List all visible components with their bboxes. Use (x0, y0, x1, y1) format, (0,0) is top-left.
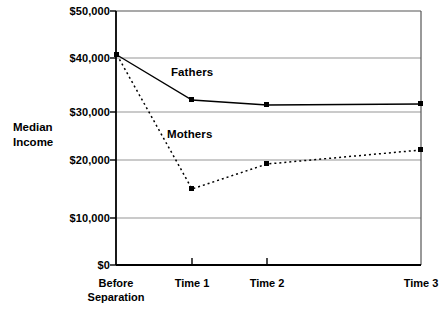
data-point-fathers-1 (189, 97, 194, 102)
series-label-fathers: Fathers (171, 66, 213, 78)
x-tick-label-time-3: Time 3 (381, 276, 444, 290)
plot-area (0, 0, 444, 315)
x-tick-label-time-3-line1: Time 3 (381, 276, 444, 290)
series-line-fathers (117, 55, 421, 105)
x-tick-label-time-2: Time 2 (227, 276, 307, 290)
x-tick-label-before-separation-line1: Before (66, 276, 166, 290)
data-point-mothers-2 (264, 161, 269, 166)
series-label-mothers: Mothers (167, 128, 212, 140)
data-point-mothers-0 (114, 52, 119, 57)
data-point-mothers-3 (418, 147, 423, 152)
data-point-fathers-2 (264, 102, 269, 107)
x-tick-label-time-1-line1: Time 1 (152, 276, 232, 290)
x-tick-label-time-2-line1: Time 2 (227, 276, 307, 290)
x-tick-label-time-1: Time 1 (152, 276, 232, 290)
data-point-fathers-3 (418, 101, 423, 106)
series-line-mothers (117, 55, 421, 189)
income-line-chart: $50,000 $40,000 $30,000 $20,000 $10,000 … (0, 0, 444, 315)
x-tick-label-before-separation-line2: Separation (66, 290, 166, 304)
x-tick-label-before-separation: Before Separation (66, 276, 166, 304)
data-point-mothers-1 (189, 186, 194, 191)
